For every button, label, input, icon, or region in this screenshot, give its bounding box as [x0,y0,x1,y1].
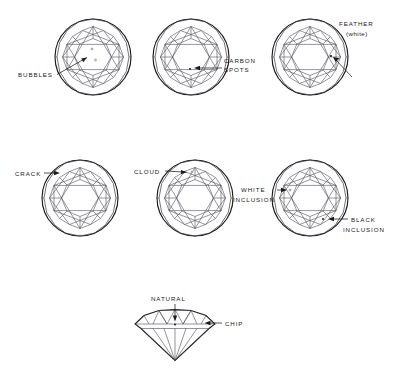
round-brilliant-top-view [55,19,131,95]
label-black-inclusion: INCLUSION [343,226,385,233]
stone-bubbles: BUBBLES [18,19,131,95]
white-inclusion-mark [289,189,291,191]
stone-feather: FEATHER (white) [272,19,374,95]
bubble-mark [91,48,93,50]
label-white: WHITE [241,186,265,193]
label-cloud: CLOUD [134,168,160,175]
label-black: BLACK [351,216,376,223]
label-feather-white: (white) [346,30,368,37]
stone-carbon-spots: CARBON SPOTS [153,19,256,95]
label-chip: CHIP [225,320,243,327]
stone-inclusions: WHITE INCLUSION BLACK INCLUSION [233,160,385,236]
stone-natural-chip: NATURAL CHIP [135,295,243,361]
label-crack: CRACK [15,170,41,177]
figure-canvas: BUBBLES CARBON SPOTS FEATHER (white) CR [0,0,399,377]
label-spots: SPOTS [224,66,249,73]
stone-cloud: CLOUD [134,160,233,236]
round-brilliant-top-view [272,19,348,95]
round-brilliant-top-view [153,19,229,95]
label-carbon: CARBON [224,57,256,64]
label-white-inclusion: INCLUSION [233,196,275,203]
bubble-mark [95,59,97,61]
label-bubbles: BUBBLES [18,71,53,78]
cloud-mark [191,171,193,173]
label-feather: FEATHER [339,20,374,27]
stone-crack: CRACK [15,160,118,236]
carbon-spot-mark [189,68,191,70]
diamond-flaws-figure: BUBBLES CARBON SPOTS FEATHER (white) CR [0,0,399,377]
round-brilliant-top-view [42,160,118,236]
label-natural: NATURAL [151,295,186,302]
natural-mark [174,324,176,326]
black-inclusion-mark [322,218,324,220]
feather-mark [330,55,332,57]
round-brilliant-top-view [272,160,348,236]
